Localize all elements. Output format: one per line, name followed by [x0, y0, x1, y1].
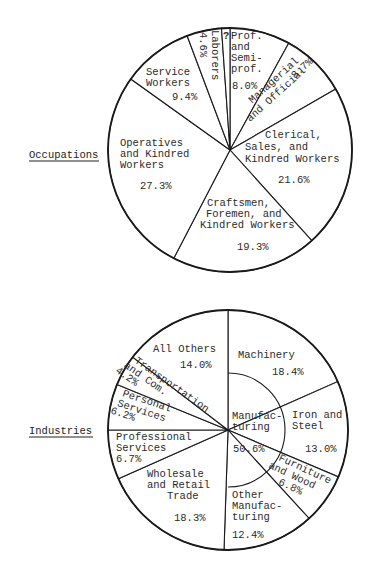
svg-text:turing: turing — [232, 421, 270, 433]
svg-text:prof.: prof. — [231, 63, 263, 75]
svg-text:6.7%: 6.7% — [116, 453, 142, 465]
svg-text:Machinery: Machinery — [238, 349, 295, 361]
svg-text:9.4%: 9.4% — [172, 91, 198, 103]
svg-text:Steel: Steel — [292, 420, 324, 432]
label-laborers: Laborers — [209, 30, 221, 80]
chart-canvas: Occupations Prof. and Semi- prof. 8.0% ?… — [0, 0, 372, 583]
svg-text:50.6%: 50.6% — [233, 443, 265, 455]
svg-text:All Others: All Others — [153, 343, 216, 355]
svg-text:Workers: Workers — [146, 77, 190, 89]
svg-text:27.3%: 27.3% — [140, 180, 172, 192]
svg-text:Kindred Workers: Kindred Workers — [200, 219, 295, 231]
svg-text:18.4%: 18.4% — [272, 366, 304, 378]
svg-text:18.3%: 18.3% — [174, 512, 206, 524]
svg-text:13.0%: 13.0% — [305, 443, 337, 455]
svg-text:Workers: Workers — [120, 159, 164, 171]
label-laborers-pct: 4.6% — [197, 32, 209, 58]
svg-text:12.4%: 12.4% — [232, 529, 264, 541]
svg-text:19.3%: 19.3% — [237, 241, 269, 253]
industries-title: Industries — [29, 425, 92, 437]
svg-text:Clerical,: Clerical, — [265, 129, 322, 141]
svg-text:turing: turing — [232, 511, 270, 523]
svg-text:14.0%: 14.0% — [180, 359, 212, 371]
svg-text:Sales, and: Sales, and — [245, 141, 308, 153]
svg-text:Trade: Trade — [167, 490, 199, 502]
svg-text:Laborers: Laborers — [209, 30, 221, 80]
svg-text:21.6%: 21.6% — [278, 174, 310, 186]
label-unknown: ? — [223, 30, 229, 42]
occupations-title: Occupations — [29, 149, 98, 161]
svg-text:Kindred Workers: Kindred Workers — [245, 153, 340, 165]
svg-text:4.6%: 4.6% — [197, 32, 209, 58]
